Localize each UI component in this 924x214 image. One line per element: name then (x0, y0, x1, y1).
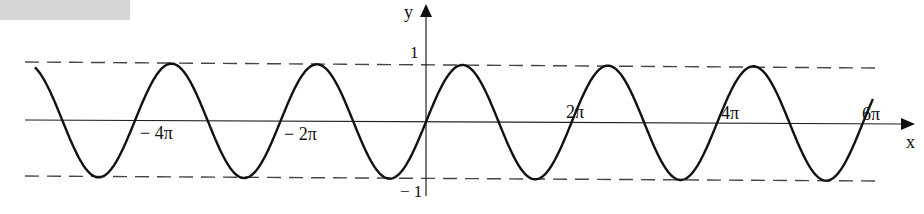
y-tick-1: 1 (410, 43, 419, 62)
x-tick-6pi: 6π (862, 104, 880, 124)
lower-bound-dashed-line (25, 176, 876, 181)
x-axis-arrow-icon (901, 118, 915, 130)
x-axis-label: x (906, 132, 915, 152)
sine-wave-figure: y x 1 − 1 − 4π − 2π 2π 4π 6π (0, 0, 924, 214)
x-tick-neg2pi: − 2π (284, 124, 317, 144)
x-tick-4pi: 4π (721, 103, 739, 123)
x-tick-neg4pi: − 4π (140, 123, 173, 143)
y-axis-label: y (404, 2, 413, 22)
redacted-header-bar (0, 0, 130, 20)
chart-canvas: y x 1 − 1 − 4π − 2π 2π 4π 6π (0, 0, 924, 214)
y-axis-arrow-icon (420, 4, 432, 17)
y-tick-neg1: − 1 (400, 182, 422, 201)
x-tick-2pi: 2π (566, 102, 584, 122)
